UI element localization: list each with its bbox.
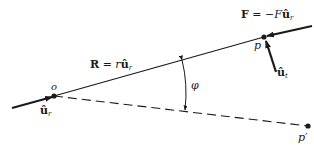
label-force: F = −Fûr xyxy=(241,8,294,22)
label-unit-t: ût xyxy=(277,66,288,80)
point-p-prime xyxy=(305,123,310,128)
label-o: o xyxy=(51,81,57,92)
central-force-diagram: o p p′ R = rûr F = −Fûr ûr ût φ xyxy=(0,0,314,152)
point-o xyxy=(51,93,56,98)
label-angle-phi: φ xyxy=(191,79,199,92)
unit-t-arrow-icon xyxy=(266,41,276,72)
label-position-vector: R = rûr xyxy=(90,58,133,72)
point-p xyxy=(261,34,266,39)
label-unit-r: ûr xyxy=(40,104,52,118)
radius-line xyxy=(54,37,264,96)
label-p-prime: p′ xyxy=(298,131,308,144)
dashed-reference-line xyxy=(54,96,308,126)
label-p: p xyxy=(254,39,261,52)
angle-arc-icon xyxy=(182,60,186,110)
force-arrow-icon xyxy=(267,26,312,36)
